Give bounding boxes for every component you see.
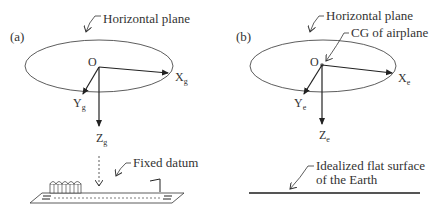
- earth-label-line1: Idealized flat surface: [316, 158, 425, 173]
- tower-marker-icon: [150, 179, 160, 192]
- x-axis-arrow: [322, 65, 392, 73]
- y-axis-arrow: [304, 65, 322, 94]
- plane-label: Horizontal plane: [103, 11, 190, 26]
- x-axis-label: Xe: [398, 71, 411, 87]
- plane-leader-arrow: [310, 16, 324, 32]
- panel-b-tag: (b): [236, 29, 251, 44]
- earth-leader-arrow: [290, 166, 314, 189]
- z-axis-label: Zg: [96, 131, 107, 147]
- z-axis-label: Ze: [319, 128, 330, 144]
- runway: [30, 193, 184, 203]
- y-axis-arrow: [83, 67, 99, 94]
- cg-leader-arrow: [326, 33, 349, 61]
- origin-label: O: [310, 55, 319, 69]
- panel-a: (a) Horizontal plane O Xg Yg Zg Fixed da…: [10, 11, 198, 203]
- reference-frames-diagram: (a) Horizontal plane O Xg Yg Zg Fixed da…: [0, 0, 441, 210]
- y-axis-label: Ye: [294, 96, 307, 112]
- x-axis-arrow: [99, 67, 168, 73]
- panel-b: (b) Horizontal plane CG of airplane O Xe…: [236, 8, 428, 193]
- cg-label: CG of airplane: [351, 25, 428, 40]
- x-axis-label: Xg: [175, 70, 188, 86]
- y-axis-label: Yg: [73, 96, 86, 112]
- earth-label-line2: of the Earth: [316, 172, 378, 187]
- panel-a-tag: (a): [10, 29, 24, 44]
- hangar-building-icon: [50, 182, 81, 194]
- plane-leader-arrow: [86, 16, 101, 32]
- plane-label: Horizontal plane: [326, 8, 413, 23]
- datum-label: Fixed datum: [133, 155, 198, 170]
- origin-label: O: [88, 55, 97, 69]
- datum-leader-arrow: [116, 163, 131, 176]
